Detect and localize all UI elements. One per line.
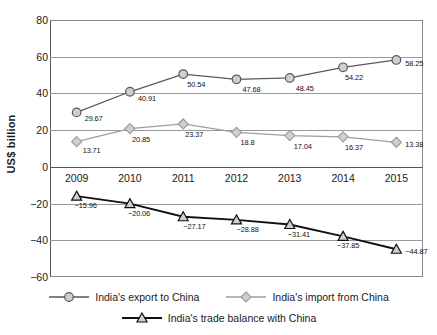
marker-import-2014 [338,132,348,142]
data-label-balance-2015: −44.87 [405,247,427,256]
legend-marker-diamond-icon [225,290,267,304]
data-label-import-2009: 13.71 [83,146,101,155]
y-tick-80: 80 [18,15,48,25]
y-axis-tick-labels: 806040200−20−40−60 [14,0,48,335]
y-tick-60: 60 [18,52,48,62]
marker-import-2013 [285,131,295,141]
marker-export-2012 [232,75,241,84]
y-tick-0: 0 [18,162,48,172]
trade-line-chart: US$ billion 806040200−20−40−60 29.6740.9… [0,0,437,335]
data-label-balance-2009: −15.96 [75,201,97,210]
legend-marker-triangle-icon [121,311,163,325]
data-label-import-2010: 20.85 [132,135,150,144]
marker-export-2013 [285,74,294,83]
data-label-export-2011: 50.54 [187,80,205,89]
data-label-export-2009: 29.67 [85,114,103,123]
marker-export-2009 [72,108,81,117]
data-label-export-2010: 40.91 [138,94,156,103]
marker-export-2015 [392,56,401,65]
data-label-export-2012: 47.68 [243,85,261,94]
marker-export-2014 [339,63,348,72]
legend-row-2: India's trade balance with China [0,311,437,325]
data-label-export-2014: 54.22 [345,73,363,82]
x-tick-2015: 2015 [385,172,408,184]
legend-item-balance[interactable]: India's trade balance with China [121,311,317,325]
x-tick-2009: 2009 [65,172,88,184]
legend-row-1: India's export to ChinaIndia's import fr… [0,290,437,304]
x-tick-2012: 2012 [225,172,248,184]
legend-item-import[interactable]: India's import from China [225,290,388,304]
y-tick-40: 40 [18,88,48,98]
marker-balance-2009 [72,191,82,200]
data-label-balance-2010: −20.06 [128,209,150,218]
data-label-export-2015: 58.25 [405,59,423,68]
data-label-balance-2012: −28.88 [237,225,259,234]
legend-label-import: India's import from China [272,291,388,303]
data-label-import-2012: 18.8 [241,138,255,147]
data-label-import-2014: 16.37 [345,143,363,152]
x-tick-2013: 2013 [278,172,301,184]
line-export [77,60,397,112]
data-label-import-2015: 13.38 [405,140,423,149]
legend-label-export: India's export to China [95,291,199,303]
marker-import-2011 [178,119,188,129]
y-tick-20: 20 [18,125,48,135]
legend-label-balance: India's trade balance with China [168,312,317,324]
series-lines [50,20,423,277]
data-label-balance-2011: −27.17 [183,222,205,231]
x-tick-2010: 2010 [118,172,141,184]
x-axis-tick-labels: 2009201020112012201320142015 [50,172,423,188]
chart-legend: India's export to ChinaIndia's import fr… [0,290,437,325]
y-tick--40: −40 [18,235,48,245]
y-tick--60: −60 [18,272,48,282]
x-tick-2014: 2014 [331,172,354,184]
data-label-balance-2013: −31.41 [288,230,310,239]
legend-item-export[interactable]: India's export to China [48,290,199,304]
data-label-import-2013: 17.04 [294,142,312,151]
data-label-balance-2014: −37.85 [337,241,359,250]
x-tick-2011: 2011 [172,172,195,184]
marker-import-2010 [125,124,135,134]
marker-export-2011 [179,70,188,79]
plot-area: 29.6740.9150.5447.6848.4554.2258.2513.71… [50,20,423,277]
marker-import-2009 [72,137,82,147]
marker-import-2015 [391,137,401,147]
legend-marker-circle-icon [48,290,90,304]
marker-import-2012 [232,127,242,137]
data-label-export-2013: 48.45 [296,84,314,93]
y-tick--20: −20 [18,199,48,209]
marker-export-2010 [126,87,135,96]
data-label-import-2011: 23.37 [185,130,203,139]
